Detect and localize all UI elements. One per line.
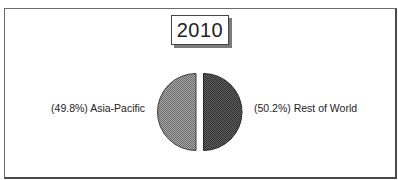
- pie-slice-asia-pacific: [158, 74, 197, 151]
- pie-chart: [0, 0, 398, 180]
- data-label-asia-pacific: (49.8%) Asia-Pacific: [51, 102, 145, 114]
- data-label-rest-of-world: (50.2%) Rest of World: [254, 102, 357, 114]
- pie-slice-rest-of-world: [204, 74, 243, 151]
